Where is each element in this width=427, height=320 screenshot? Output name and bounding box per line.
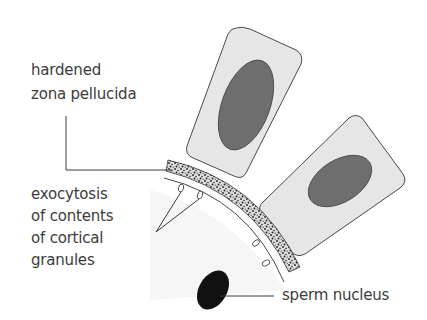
exocytosis-label-line2: of contents: [31, 205, 113, 227]
exocytosis-label-line3: of cortical: [31, 227, 113, 249]
follicle-cell-upper: [187, 27, 302, 177]
sperm-nucleus-text: sperm nucleus: [282, 285, 389, 305]
exocytosis-label-line4: granules: [31, 249, 113, 271]
zona-label-line1: hardened: [31, 60, 136, 80]
cortical-reaction-diagram: [0, 0, 427, 320]
zona-label-line2: zona pellucida: [31, 84, 136, 104]
exocytosis-label: exocytosis of contents of cortical granu…: [31, 183, 113, 271]
exocytosis-label-line1: exocytosis: [31, 183, 113, 205]
sperm-nucleus-label: sperm nucleus: [282, 285, 389, 305]
zona-leader-line: [66, 116, 172, 170]
zona-pellucida-label: hardened zona pellucida: [31, 60, 136, 104]
